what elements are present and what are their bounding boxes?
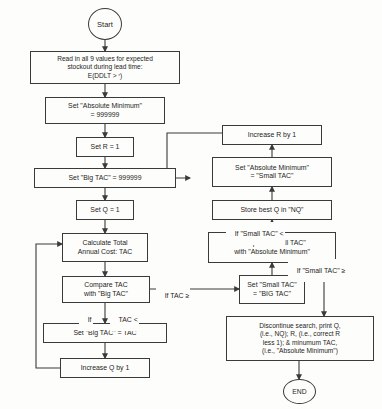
store-best-q-label: Store best Q in "NQ" <box>240 206 303 214</box>
edge-label-if-small-tac-ge: If "Small TAC" ≥ <box>288 259 346 282</box>
compare-tac-box: Compare TAC with "Big TAC" <box>62 276 150 303</box>
set-big-tac-equals-tac-box: Set "Big TAC" = TAC <box>43 323 167 343</box>
edge-label-if-tac-lt-value: TAC < <box>110 308 139 331</box>
edge-label-if-small-tac-lt: If "Small TAC" < <box>226 222 285 245</box>
set-big-tac-label: Set "Big TAC" = 999999 <box>68 174 141 182</box>
edge-label-if-tac-lt-if: If <box>79 308 93 331</box>
set-absolute-minimum-label: Set "Absolute Minimum" = 999999 <box>68 102 142 119</box>
set-absmin-small-tac-label: Set "Absolute Minimum" = "Small TAC" <box>235 164 309 181</box>
edge-label-if-tac-ge: If TAC ≥ <box>156 284 190 307</box>
end-terminator: END <box>283 379 316 404</box>
read-inputs-box: Read in all 9 values for expected stocko… <box>30 51 180 84</box>
edge-increaseq-loop-to-calc <box>36 244 62 368</box>
set-small-tac-label: Set "Small TAC" = "BIG TAC" <box>247 281 296 298</box>
set-q-box: Set Q = 1 <box>76 200 134 220</box>
calculate-tac-box: Calculate Total Annual Cost: TAC <box>62 233 148 262</box>
compare-tac-label: Compare TAC with "Big TAC" <box>84 281 128 298</box>
set-absmin-small-tac-box: Set "Absolute Minimum" = "Small TAC" <box>212 157 332 187</box>
set-r-box: Set R = 1 <box>76 137 134 157</box>
increase-r-label: Increase R by 1 <box>248 131 296 139</box>
discontinue-box: Discontinue search, print Q, (i.e., NQ);… <box>226 316 374 361</box>
increase-q-box: Increase Q by 1 <box>60 358 150 378</box>
start-terminator: Start <box>88 8 122 40</box>
increase-q-label: Increase Q by 1 <box>81 364 130 372</box>
set-r-label: Set R = 1 <box>91 143 120 151</box>
discontinue-label: Discontinue search, print Q, (i.e., NQ);… <box>259 322 340 354</box>
read-inputs-label: Read in all 9 values for expected stocko… <box>57 55 153 79</box>
end-label: END <box>292 388 306 395</box>
start-label: Start <box>97 20 113 29</box>
flowchart-canvas: Start Read in all 9 values for expected … <box>0 0 382 409</box>
calculate-tac-label: Calculate Total Annual Cost: TAC <box>78 239 133 256</box>
set-absolute-minimum-box: Set "Absolute Minimum" = 999999 <box>45 97 165 124</box>
increase-r-box: Increase R by 1 <box>222 125 322 145</box>
set-q-label: Set Q = 1 <box>90 206 119 214</box>
store-best-q-box: Store best Q in "NQ" <box>212 200 332 220</box>
set-big-tac-box: Set "Big TAC" = 999999 <box>34 168 176 188</box>
